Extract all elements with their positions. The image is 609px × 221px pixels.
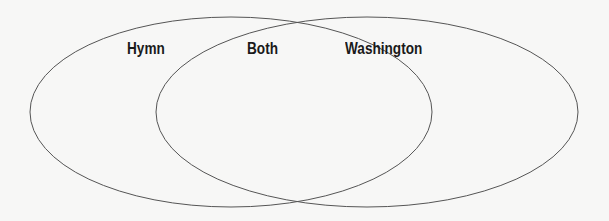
label-washington: Washington <box>345 40 422 58</box>
label-hymn: Hymn <box>127 40 165 58</box>
label-both: Both <box>247 40 278 58</box>
venn-diagram <box>0 0 609 221</box>
